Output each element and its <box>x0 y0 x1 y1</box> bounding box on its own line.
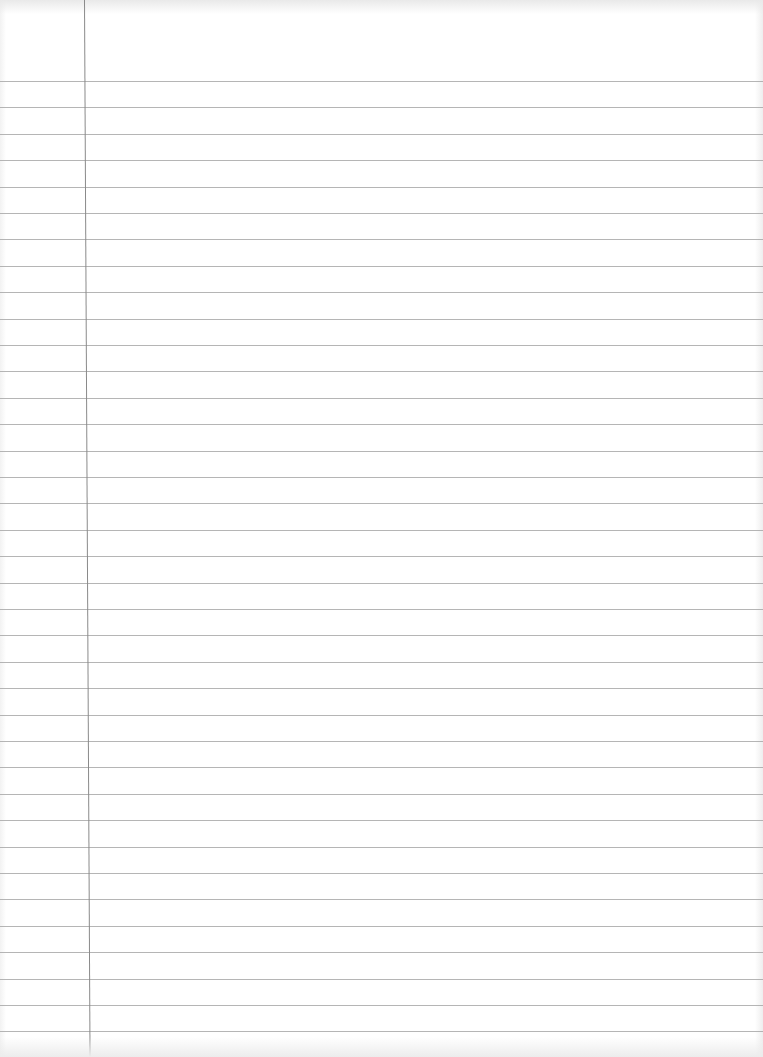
ruled-line <box>0 160 763 161</box>
ruled-line <box>0 820 763 821</box>
ruled-line <box>0 477 763 478</box>
ruled-line <box>0 451 763 452</box>
ruled-line <box>0 767 763 768</box>
ruled-line <box>0 662 763 663</box>
ruled-line <box>0 81 763 82</box>
ruled-line <box>0 635 763 636</box>
lined-paper-sheet <box>0 0 763 1057</box>
ruled-line <box>0 134 763 135</box>
ruled-line <box>0 213 763 214</box>
ruled-line <box>0 847 763 848</box>
ruled-line <box>0 1031 763 1032</box>
ruled-line <box>0 741 763 742</box>
ruled-line <box>0 530 763 531</box>
ruled-line <box>0 292 763 293</box>
ruled-line <box>0 952 763 953</box>
ruled-line <box>0 556 763 557</box>
ruled-line <box>0 899 763 900</box>
ruled-line <box>0 187 763 188</box>
bottom-edge-shadow <box>0 1037 763 1057</box>
ruled-line <box>0 345 763 346</box>
ruled-line <box>0 503 763 504</box>
ruled-line <box>0 239 763 240</box>
ruled-line <box>0 319 763 320</box>
ruled-line <box>0 926 763 927</box>
ruled-line <box>0 873 763 874</box>
ruled-line <box>0 1005 763 1006</box>
ruled-line <box>0 424 763 425</box>
ruled-line <box>0 398 763 399</box>
ruled-line <box>0 979 763 980</box>
ruled-line <box>0 583 763 584</box>
ruled-line <box>0 266 763 267</box>
ruled-line <box>0 715 763 716</box>
ruled-line <box>0 794 763 795</box>
ruled-line <box>0 371 763 372</box>
ruled-line <box>0 107 763 108</box>
ruled-line <box>0 609 763 610</box>
top-edge-shadow <box>0 0 763 14</box>
ruled-line <box>0 688 763 689</box>
